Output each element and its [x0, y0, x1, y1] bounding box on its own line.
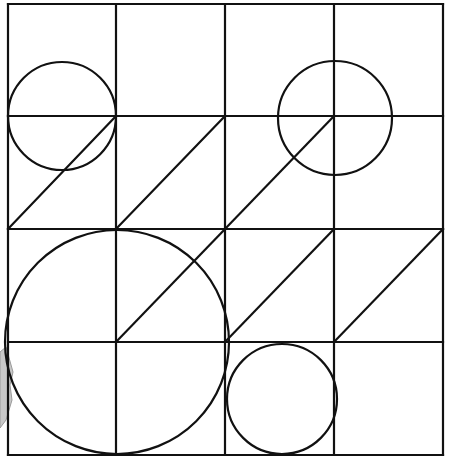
diagonal-line-1	[116, 116, 225, 229]
diagonal-line-4	[225, 229, 334, 342]
diagonal-line-3	[116, 229, 225, 342]
diagonal-line-5	[334, 229, 443, 342]
grid-figure	[0, 0, 453, 469]
circle-small-bottom	[227, 344, 337, 454]
diagonal-line-0	[8, 116, 116, 229]
